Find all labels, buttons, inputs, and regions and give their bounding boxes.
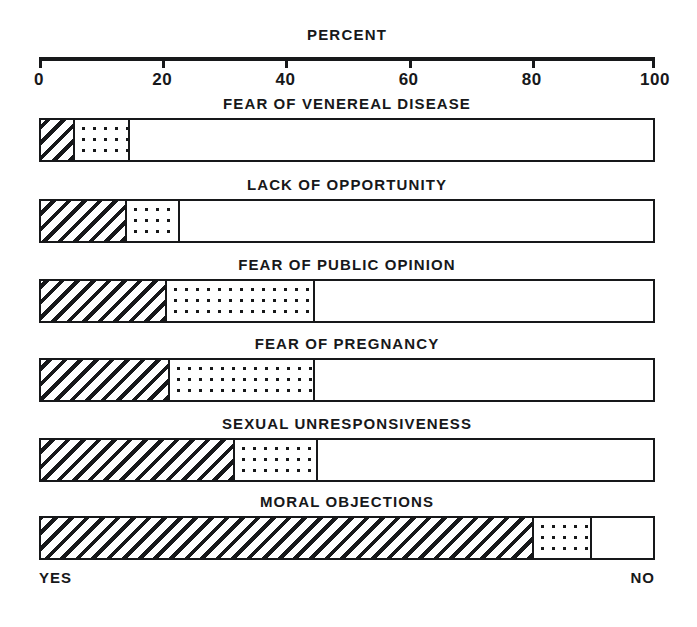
- bar-segment-yes: [41, 360, 170, 400]
- bar-segment-no: [315, 281, 653, 321]
- bar-row: [39, 199, 655, 243]
- bar-row: [39, 118, 655, 162]
- axis-tick: [409, 57, 412, 68]
- bar-row: [39, 358, 655, 402]
- axis-tick: [39, 57, 42, 68]
- axis-tick-label: 0: [34, 70, 44, 90]
- bar-row-label: LACK OF OPPORTUNITY: [39, 176, 655, 193]
- axis-tick: [162, 57, 165, 68]
- bar-segment-no: [130, 120, 653, 160]
- bar-segment-no: [315, 360, 653, 400]
- axis-tick-label: 80: [522, 70, 542, 90]
- bar-row-label: FEAR OF PUBLIC OPINION: [39, 256, 655, 273]
- bar-segment-middle: [127, 201, 179, 241]
- bar-row-label: MORAL OBJECTIONS: [39, 493, 655, 510]
- bar-segment-middle: [534, 518, 593, 558]
- chart-title: PERCENT: [39, 26, 655, 43]
- bar-segment-yes: [41, 120, 75, 160]
- bar-row: [39, 516, 655, 560]
- bar-row: [39, 438, 655, 482]
- axis-end-label-no: NO: [631, 569, 656, 586]
- bar-segment-middle: [75, 120, 130, 160]
- axis-tick: [532, 57, 535, 68]
- bar-row-label: FEAR OF VENEREAL DISEASE: [39, 95, 655, 112]
- bar-segment-yes: [41, 440, 235, 480]
- bar-row-label: SEXUAL UNRESPONSIVENESS: [39, 415, 655, 432]
- bar-segment-middle: [170, 360, 315, 400]
- axis-end-label-yes: YES: [39, 569, 72, 586]
- bar-segment-yes: [41, 281, 167, 321]
- axis-line: [39, 57, 655, 61]
- bar-segment-no: [318, 440, 653, 480]
- chart-root: PERCENT 020406080100 FEAR OF VENEREAL DI…: [0, 0, 697, 627]
- axis-tick: [652, 57, 655, 68]
- axis-tick-label: 40: [275, 70, 295, 90]
- axis-tick-label: 60: [399, 70, 419, 90]
- axis-tick-label: 100: [640, 70, 670, 90]
- x-axis: [39, 57, 655, 68]
- bar-segment-yes: [41, 201, 127, 241]
- axis-tick: [285, 57, 288, 68]
- bar-segment-no: [592, 518, 653, 558]
- bar-row: [39, 279, 655, 323]
- bar-row-label: FEAR OF PREGNANCY: [39, 335, 655, 352]
- bar-segment-no: [180, 201, 653, 241]
- bar-segment-middle: [167, 281, 315, 321]
- bar-segment-middle: [235, 440, 318, 480]
- bar-segment-yes: [41, 518, 534, 558]
- axis-tick-label: 20: [152, 70, 172, 90]
